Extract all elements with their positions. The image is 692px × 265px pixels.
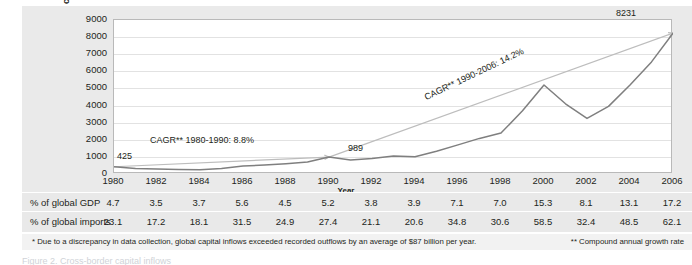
table-cell: 15.3 xyxy=(520,197,566,208)
annotation-cagr-1980-1990: CAGR** 1980-1990: 8.8% xyxy=(150,135,254,145)
x-axis-tick-label: 2006 xyxy=(649,175,692,186)
table-cell: 7.1 xyxy=(434,197,480,208)
table-row: % of global imports 23.117.218.131.524.9… xyxy=(22,212,692,231)
table-cell: 3.8 xyxy=(348,197,394,208)
table-cell: 34.8 xyxy=(434,216,480,227)
table-cell: 17.2 xyxy=(133,216,179,227)
x-axis-tick-label: 2002 xyxy=(563,175,609,186)
data-series-line xyxy=(114,33,673,170)
x-axis-tick-label: 1984 xyxy=(176,175,222,186)
trend-lines xyxy=(114,33,673,167)
plot-area xyxy=(113,19,672,173)
table-cell: 62.1 xyxy=(649,216,692,227)
y-axis-tick-label: 5000 xyxy=(67,82,107,91)
table-cell: 3.9 xyxy=(391,197,437,208)
data-label-1980: 425 xyxy=(117,151,132,161)
table-cell: 30.6 xyxy=(477,216,523,227)
table-cell: 58.5 xyxy=(520,216,566,227)
table-cell: 4.7 xyxy=(90,197,136,208)
x-axis-tick-label: 1996 xyxy=(434,175,480,186)
table-cell: 3.5 xyxy=(133,197,179,208)
data-label-2006: 8231 xyxy=(616,8,636,18)
data-table: % of global GDP 4.73.53.75.64.55.23.83.9… xyxy=(22,192,692,232)
table-cell: 17.2 xyxy=(649,197,692,208)
x-axis-tick-label: 1986 xyxy=(219,175,265,186)
x-axis-tick-label: 1998 xyxy=(477,175,523,186)
footnote-bar: * Due to a discrepancy in data collectio… xyxy=(22,233,692,250)
table-row: % of global GDP 4.73.53.75.64.55.23.83.9… xyxy=(22,193,692,212)
y-axis-tick-label: 6000 xyxy=(67,65,107,74)
x-axis-tick-label: 1982 xyxy=(133,175,179,186)
x-axis-tick-label: 1988 xyxy=(262,175,308,186)
table-cell: 13.1 xyxy=(606,197,652,208)
table-cell: 23.1 xyxy=(90,216,136,227)
table-cell: 27.4 xyxy=(305,216,351,227)
trend-line xyxy=(329,33,673,157)
x-axis-tick-label: 1990 xyxy=(305,175,351,186)
y-axis-tick-label: 8000 xyxy=(67,31,107,40)
table-cell: 4.5 xyxy=(262,197,308,208)
y-axis-title: Total cross-border capital inflows* $ bi… xyxy=(40,0,64,18)
exhibit-chart: Total cross-border capital inflows* $ bi… xyxy=(0,0,692,265)
x-axis-tick-label: 2000 xyxy=(520,175,566,186)
table-cell: 32.4 xyxy=(563,216,609,227)
plot-svg xyxy=(114,20,673,174)
y-axis-title-line-1: Total cross-border xyxy=(40,0,51,18)
footnote-right: ** Compound annual growth rate xyxy=(571,237,684,246)
y-axis-tick-label: 4000 xyxy=(67,100,107,109)
trend-line xyxy=(114,157,329,167)
data-label-1990: 989 xyxy=(348,143,363,153)
table-cell: 48.5 xyxy=(606,216,652,227)
table-cell: 3.7 xyxy=(176,197,222,208)
x-axis-tick-label: 1994 xyxy=(391,175,437,186)
table-cell: 21.1 xyxy=(348,216,394,227)
y-axis-tick-label: 7000 xyxy=(67,48,107,57)
table-cell: 7.0 xyxy=(477,197,523,208)
table-cell: 8.1 xyxy=(563,197,609,208)
y-axis-tick-label: 1000 xyxy=(67,151,107,160)
y-axis-title-line-2: capital inflows* $ billion, xyxy=(51,0,62,18)
table-cell: 24.9 xyxy=(262,216,308,227)
x-axis-tick-label: 1992 xyxy=(348,175,394,186)
table-cell: 18.1 xyxy=(176,216,222,227)
x-axis-tick-label: 1980 xyxy=(90,175,136,186)
footnote-left: * Due to a discrepancy in data collectio… xyxy=(32,237,476,246)
x-axis-tick-label: 2004 xyxy=(606,175,652,186)
clipped-caption-text: Figure 2. Cross-border capital inflows xyxy=(22,256,422,265)
y-axis-tick-label: 2000 xyxy=(67,134,107,143)
y-axis-tick-label: 9000 xyxy=(67,14,107,23)
table-cell: 31.5 xyxy=(219,216,265,227)
table-cell: 20.6 xyxy=(391,216,437,227)
y-axis-tick-label: 3000 xyxy=(67,117,107,126)
table-cell: 5.2 xyxy=(305,197,351,208)
table-cell: 5.6 xyxy=(219,197,265,208)
